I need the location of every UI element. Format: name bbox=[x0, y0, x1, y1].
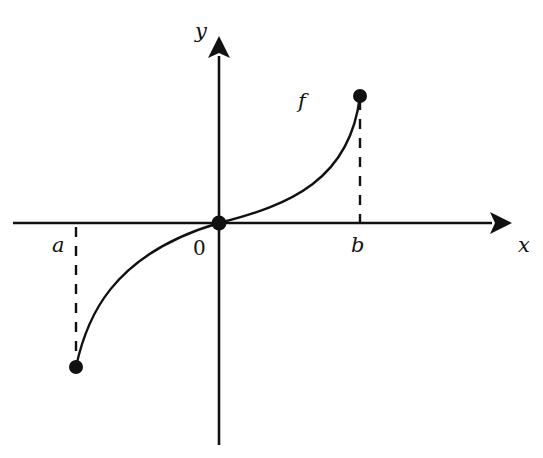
function-graph-diagram: y f a 0 b x bbox=[0, 0, 543, 458]
right-endpoint-dot bbox=[353, 89, 367, 103]
function-label: f bbox=[296, 89, 309, 113]
a-label: a bbox=[52, 233, 65, 257]
origin-dot bbox=[212, 216, 227, 231]
x-axis-label: x bbox=[518, 233, 530, 257]
b-label: b bbox=[351, 233, 364, 257]
x-axis-arrow-icon bbox=[490, 212, 512, 234]
y-axis-arrow-icon bbox=[208, 36, 230, 58]
origin-label: 0 bbox=[193, 236, 206, 260]
y-axis-label: y bbox=[194, 19, 208, 43]
left-endpoint-dot bbox=[69, 360, 83, 374]
